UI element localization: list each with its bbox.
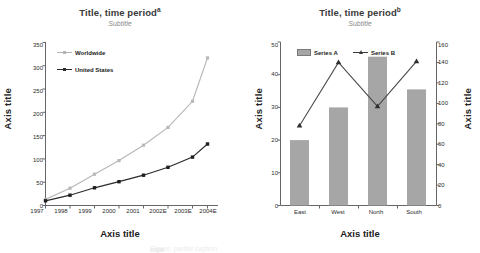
right-chart-panel: Title, time periodb Subtitle Axis title … — [240, 0, 480, 253]
chart-sheet: Title, time perioda Subtitle Axis title … — [0, 0, 480, 253]
bottom-caption-strip: Figure: partial caption — [0, 245, 480, 253]
right-series-a-bars — [290, 57, 426, 206]
left-chart-panel: Title, time perioda Subtitle Axis title … — [0, 0, 240, 253]
right-series-b-line — [300, 61, 417, 125]
left-series-worldwide-line — [46, 58, 208, 200]
bar-south — [407, 89, 426, 205]
bottom-caption-text: Figure: partial caption — [150, 245, 217, 252]
right-series-b-markers — [297, 58, 420, 127]
bar-east — [290, 140, 309, 205]
right-chart-plot — [240, 0, 480, 253]
bar-north — [368, 57, 387, 206]
left-chart-plot — [0, 0, 240, 253]
bar-west — [329, 107, 348, 205]
left-series-united-states-markers — [44, 142, 209, 202]
left-series-united-states-line — [46, 144, 208, 201]
